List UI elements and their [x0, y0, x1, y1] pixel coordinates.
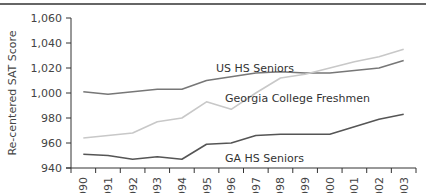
series-labels: US HS SeniorsGeorgia College FreshmenGA …: [216, 62, 370, 165]
x-tick-label: 2000: [324, 177, 337, 193]
y-tick-label: 1,060: [31, 12, 63, 25]
x-tick-label: 1990: [77, 177, 90, 193]
x-tick-label: 1993: [151, 177, 164, 193]
x-tick-label: 1994: [176, 177, 189, 193]
x-tick-label: 2002: [373, 177, 386, 193]
y-tick-label: 980: [41, 112, 62, 125]
y-axis: 9409609801,0001,0201,0401,060: [31, 12, 72, 175]
x-tick-label: 1992: [127, 177, 140, 193]
y-tick-label: 1,040: [31, 37, 63, 50]
sat-score-line-chart: 9409609801,0001,0201,0401,060 1990199119…: [0, 0, 426, 193]
x-tick-label: 1996: [225, 177, 238, 193]
series-label: Georgia College Freshmen: [225, 92, 370, 105]
x-tick-label: 1995: [201, 177, 214, 193]
y-tick-label: 940: [41, 162, 62, 175]
series-label: GA HS Seniors: [225, 152, 304, 165]
x-tick-label: 1997: [250, 177, 263, 193]
x-tick-label: 2003: [398, 177, 411, 193]
y-tick-label: 960: [41, 137, 62, 150]
series-label: US HS Seniors: [216, 62, 294, 75]
x-axis: 1990199119921993199419951996199719981999…: [66, 168, 416, 193]
x-tick-label: 1998: [274, 177, 287, 193]
y-axis-title: Re-centered SAT Score: [6, 30, 19, 155]
y-tick-label: 1,000: [31, 87, 63, 100]
x-tick-label: 2001: [348, 177, 361, 193]
y-tick-label: 1,020: [31, 62, 63, 75]
x-tick-label: 1991: [102, 177, 115, 193]
x-tick-label: 1999: [299, 177, 312, 193]
